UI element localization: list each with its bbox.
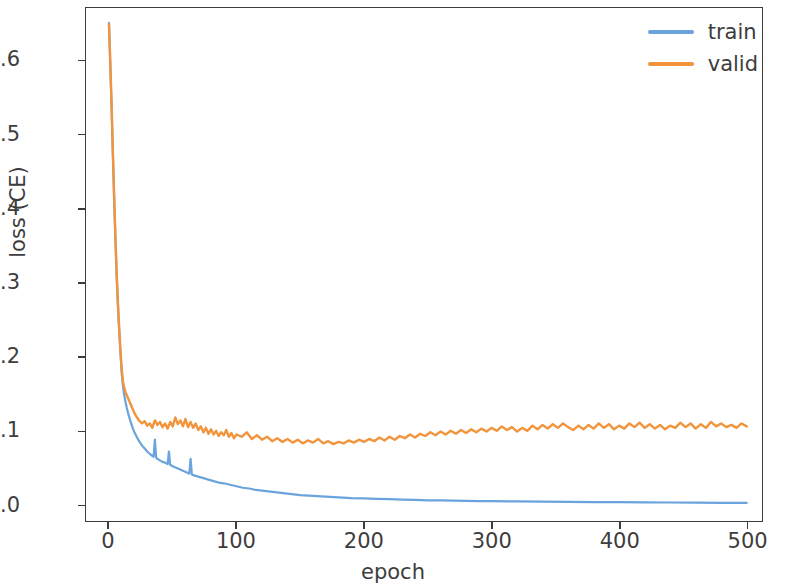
valid-line: [109, 24, 747, 444]
y-tick-mark: [78, 356, 85, 358]
x-tick-mark: [491, 522, 493, 529]
x-tick-label: 300: [452, 531, 532, 552]
plot-area: [85, 7, 763, 522]
y-tick-mark: [78, 431, 85, 433]
legend-swatch-valid: [648, 62, 694, 66]
x-tick-label: 500: [708, 531, 786, 552]
y-tick-label: 0.1: [0, 420, 20, 441]
x-tick-label: 0: [68, 531, 148, 552]
y-tick-mark: [78, 208, 85, 210]
legend-item-valid: valid: [648, 48, 758, 80]
y-tick-mark: [78, 60, 85, 62]
legend-item-train: train: [648, 16, 758, 48]
y-tick-label: 0.0: [0, 495, 20, 516]
legend-label-valid: valid: [708, 54, 758, 75]
y-tick-label: 0.6: [0, 49, 20, 70]
x-tick-label: 400: [580, 531, 660, 552]
chart-legend: train valid: [644, 14, 762, 82]
x-tick-mark: [107, 522, 109, 529]
y-axis-label: loss (CE): [6, 142, 30, 282]
y-tick-label: 0.2: [0, 346, 20, 367]
x-tick-mark: [619, 522, 621, 529]
y-tick-mark: [78, 134, 85, 136]
x-tick-label: 200: [324, 531, 404, 552]
y-tick-mark: [78, 505, 85, 507]
x-tick-mark: [363, 522, 365, 529]
x-axis-label: epoch: [0, 560, 786, 584]
x-tick-mark: [235, 522, 237, 529]
legend-label-train: train: [708, 22, 757, 43]
loss-curve-figure: 0.00.10.20.30.40.50.6 0100200300400500 e…: [0, 0, 786, 585]
plot-lines-svg: [86, 8, 762, 521]
x-tick-mark: [747, 522, 749, 529]
x-tick-label: 100: [196, 531, 276, 552]
legend-swatch-train: [648, 30, 694, 34]
y-tick-mark: [78, 282, 85, 284]
